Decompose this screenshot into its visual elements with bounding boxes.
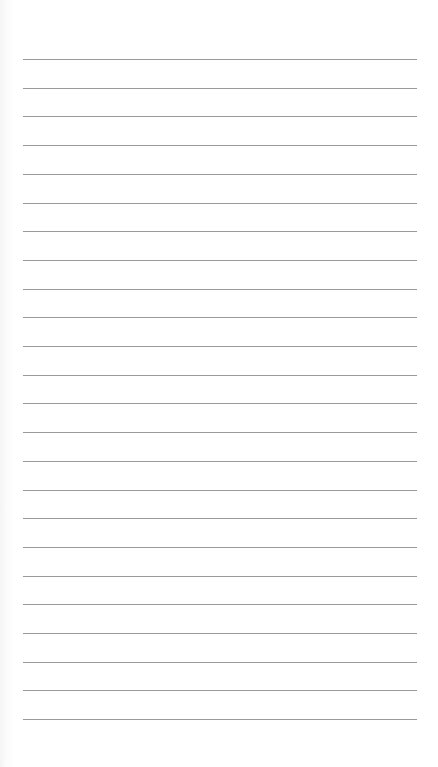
ruled-line (23, 719, 417, 720)
ruled-line (23, 461, 417, 462)
ruled-line (23, 375, 417, 376)
ruled-line (23, 346, 417, 347)
ruled-line (23, 317, 417, 318)
ruled-line (23, 260, 417, 261)
ruled-line (23, 432, 417, 433)
ruled-line (23, 690, 417, 691)
ruled-line (23, 145, 417, 146)
ruled-line (23, 59, 417, 60)
ruled-line (23, 174, 417, 175)
ruled-line (23, 289, 417, 290)
ruled-line (23, 604, 417, 605)
ruled-line (23, 403, 417, 404)
ruled-line (23, 116, 417, 117)
lined-paper-sheet (0, 0, 438, 767)
ruled-line (23, 662, 417, 663)
ruled-line (23, 490, 417, 491)
ruled-line (23, 576, 417, 577)
ruled-line (23, 518, 417, 519)
ruled-line (23, 203, 417, 204)
ruled-line (23, 231, 417, 232)
ruled-lines (0, 0, 438, 767)
ruled-line (23, 88, 417, 89)
ruled-line (23, 633, 417, 634)
ruled-line (23, 547, 417, 548)
